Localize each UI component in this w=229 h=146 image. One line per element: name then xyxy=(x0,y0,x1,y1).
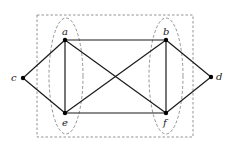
node-label-b: b xyxy=(163,26,169,37)
nodes xyxy=(21,38,213,115)
edge-c-e xyxy=(23,78,65,113)
node-label-f: f xyxy=(162,117,169,128)
edge-c-a xyxy=(23,40,65,78)
node-e xyxy=(63,111,67,115)
node-a xyxy=(63,38,67,42)
node-label-c: c xyxy=(11,72,17,83)
graph-diagram: a b c d e f xyxy=(0,0,229,146)
edge-d-b xyxy=(166,40,211,77)
node-f xyxy=(164,111,168,115)
node-d xyxy=(209,75,213,79)
node-label-d: d xyxy=(216,71,222,82)
node-b xyxy=(164,38,168,42)
node-label-e: e xyxy=(62,117,68,128)
edge-d-f xyxy=(166,77,211,113)
node-c xyxy=(21,76,25,80)
node-label-a: a xyxy=(62,26,68,37)
